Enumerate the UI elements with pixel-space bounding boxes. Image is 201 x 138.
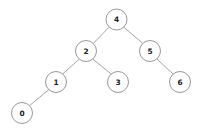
tree-node-label-3: 3 xyxy=(115,78,120,87)
tree-node-5: 5 xyxy=(140,41,161,62)
tree-edge-n5-n6 xyxy=(157,59,173,74)
tree-node-label-5: 5 xyxy=(147,47,152,56)
tree-node-4: 4 xyxy=(106,9,127,30)
tree-node-label-1: 1 xyxy=(53,78,58,87)
tree-edge-n4-n5 xyxy=(124,27,143,43)
tree-node-2: 2 xyxy=(76,41,97,62)
tree-edge-n4-n2 xyxy=(93,27,109,43)
tree-edge-n2-n1 xyxy=(63,59,80,74)
tree-canvas: 4251360 xyxy=(0,0,201,138)
tree-node-label-6: 6 xyxy=(177,78,182,87)
tree-node-0: 0 xyxy=(12,103,33,124)
tree-node-label-2: 2 xyxy=(83,47,88,56)
tree-node-6: 6 xyxy=(170,72,191,93)
tree-node-label-0: 0 xyxy=(19,109,24,118)
tree-edge-n1-n0 xyxy=(29,90,49,106)
tree-edges-group xyxy=(29,27,173,106)
tree-node-3: 3 xyxy=(108,72,129,93)
tree-node-label-4: 4 xyxy=(114,15,119,24)
binary-tree-diagram: 4251360 xyxy=(0,0,201,138)
tree-node-1: 1 xyxy=(46,72,67,93)
tree-edge-n2-n3 xyxy=(93,59,111,74)
